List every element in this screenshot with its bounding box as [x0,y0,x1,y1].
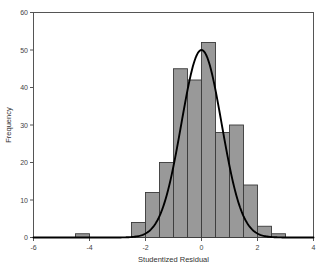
histogram-bar [230,125,244,238]
x-tick-label--2: -2 [142,244,148,251]
y-tick-label-0: 0 [24,234,28,241]
x-tick-label-0: 0 [200,244,204,251]
histogram-chart: 0102030405060-6-4-2024Studentized Residu… [0,0,321,268]
chart-canvas: 0102030405060-6-4-2024Studentized Residu… [0,0,321,268]
y-axis-title: Frequency [4,107,13,143]
y-tick-label-30: 30 [20,122,28,129]
histogram-bar [244,185,258,238]
x-tick-label-4: 4 [312,244,316,251]
histogram-bar [188,80,202,238]
x-tick-label--4: -4 [86,244,92,251]
histogram-bar [146,193,160,238]
histogram-bar [216,133,230,238]
y-tick-label-40: 40 [20,84,28,91]
y-tick-label-60: 60 [20,9,28,16]
x-tick-label-2: 2 [256,244,260,251]
histogram-bar [202,43,216,238]
y-tick-label-20: 20 [20,159,28,166]
y-tick-label-50: 50 [20,47,28,54]
x-tick-label--6: -6 [30,244,36,251]
x-axis-title: Studentized Residual [138,255,209,264]
y-tick-label-10: 10 [20,197,28,204]
